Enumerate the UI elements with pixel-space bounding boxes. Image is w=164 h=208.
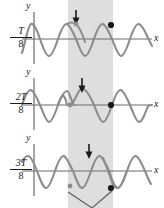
time-label-2: 3T 8 (4, 158, 38, 181)
black-dot-0 (108, 22, 114, 28)
gray-dot-1 (68, 103, 73, 108)
wave-panel-t-over-8: T 8 y x (0, 0, 164, 68)
time-label-denominator-1: 8 (4, 104, 38, 115)
x-axis-label-0: x (154, 33, 158, 43)
time-label-denominator-2: 8 (4, 170, 38, 181)
gray-dot-2 (68, 184, 73, 189)
wave-snapshot-figure: T 8 y x 2T 8 y x (0, 0, 164, 208)
time-label-denominator-0: 8 (4, 38, 38, 49)
time-label-numerator-0: T (4, 26, 38, 37)
wave-panel-2t-over-8: 2T 8 y x (0, 66, 164, 134)
black-dot-1 (108, 102, 114, 108)
x-axis-label-1: x (154, 99, 158, 109)
wave-panel-3t-over-8: 3T 8 y x (0, 132, 164, 208)
black-dot-2 (108, 185, 114, 191)
x-axis-label-2: x (154, 165, 158, 175)
gray-dot-0 (74, 22, 79, 27)
y-axis-label-1: y (26, 67, 30, 77)
y-axis-label-2: y (26, 133, 30, 143)
time-label-numerator-1: 2T (4, 92, 38, 103)
time-label-0: T 8 (4, 26, 38, 49)
time-label-numerator-2: 3T (4, 158, 38, 169)
time-label-1: 2T 8 (4, 92, 38, 115)
y-axis-label-0: y (26, 1, 30, 11)
